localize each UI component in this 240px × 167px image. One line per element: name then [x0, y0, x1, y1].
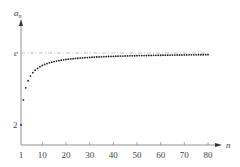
- x-tick-label: 30: [85, 150, 95, 160]
- data-point: [146, 55, 148, 57]
- data-point: [82, 57, 84, 59]
- data-point: [63, 59, 65, 61]
- data-point: [53, 61, 55, 63]
- data-point: [72, 58, 74, 60]
- data-point: [91, 56, 93, 58]
- two-tick-label: 2: [13, 120, 18, 130]
- data-point: [153, 54, 155, 56]
- data-point: [124, 55, 126, 57]
- data-point: [27, 80, 29, 82]
- data-point: [37, 67, 39, 69]
- data-point: [162, 54, 164, 56]
- x-tick-label: 60: [156, 150, 166, 160]
- data-point: [207, 54, 209, 56]
- data-point: [60, 59, 62, 61]
- data-point: [65, 59, 67, 61]
- data-point: [169, 54, 171, 56]
- data-point: [179, 54, 181, 56]
- data-point: [186, 54, 188, 56]
- x-axis-arrow-icon: [215, 143, 222, 147]
- data-point: [75, 58, 77, 60]
- data-point: [200, 54, 202, 56]
- data-point: [67, 58, 69, 60]
- data-point: [105, 56, 107, 58]
- data-point: [164, 54, 166, 56]
- data-point: [103, 56, 105, 58]
- data-point: [122, 55, 124, 57]
- data-point: [96, 56, 98, 58]
- data-point: [22, 99, 24, 101]
- data-point: [138, 55, 140, 57]
- data-point: [136, 55, 138, 57]
- x-tick-label: 80: [204, 150, 214, 160]
- y-axis-label: an: [14, 8, 22, 19]
- data-point: [195, 54, 197, 56]
- data-point: [131, 55, 133, 57]
- data-point: [117, 55, 119, 57]
- data-point: [86, 57, 88, 59]
- data-point: [115, 55, 117, 57]
- x-axis-label: n: [226, 140, 231, 150]
- data-point: [191, 54, 193, 56]
- data-point: [58, 60, 60, 62]
- data-point: [51, 61, 53, 63]
- x-tick-label: 20: [61, 150, 71, 160]
- data-point: [188, 54, 190, 56]
- data-point: [20, 124, 22, 126]
- data-point: [205, 54, 207, 56]
- data-point: [143, 55, 145, 57]
- data-point: [101, 56, 103, 58]
- data-point: [79, 57, 81, 59]
- data-point: [108, 56, 110, 58]
- x-tick-label: 70: [180, 150, 190, 160]
- data-point: [77, 57, 79, 59]
- data-point: [89, 57, 91, 59]
- data-point: [93, 56, 95, 58]
- data-point: [98, 56, 100, 58]
- data-point: [181, 54, 183, 56]
- x-tick-label: 40: [109, 150, 119, 160]
- data-point: [148, 55, 150, 57]
- x-tick-label: 50: [132, 150, 142, 160]
- data-point: [157, 54, 159, 56]
- data-point: [70, 58, 72, 60]
- data-point: [183, 54, 185, 56]
- x-tick-label: 10: [38, 150, 48, 160]
- data-point: [84, 57, 86, 59]
- data-point: [141, 55, 143, 57]
- data-point: [172, 54, 174, 56]
- data-point: [34, 69, 36, 71]
- data-point: [46, 63, 48, 65]
- data-point: [39, 66, 41, 68]
- data-point: [112, 55, 114, 57]
- data-point: [32, 72, 34, 74]
- data-point: [44, 64, 46, 66]
- data-point: [120, 55, 122, 57]
- data-point: [176, 54, 178, 56]
- sequence-scatter-chart: 11020304050607080 an n e 2: [0, 0, 240, 167]
- data-point: [167, 54, 169, 56]
- y-axis-arrow-icon: [19, 19, 23, 26]
- data-point: [127, 55, 129, 57]
- data-point: [30, 75, 32, 77]
- data-point: [150, 54, 152, 56]
- x-tick-label: 1: [19, 150, 24, 160]
- data-point: [49, 62, 51, 64]
- e-tick-label: e: [14, 48, 18, 58]
- data-point: [193, 54, 195, 56]
- data-point: [160, 54, 162, 56]
- data-point: [155, 54, 157, 56]
- data-point: [110, 56, 112, 58]
- data-point: [174, 54, 176, 56]
- data-point: [129, 55, 131, 57]
- data-point: [41, 65, 43, 67]
- data-point: [134, 55, 136, 57]
- data-point: [56, 60, 58, 62]
- data-points: [20, 54, 209, 126]
- data-point: [202, 54, 204, 56]
- data-point: [198, 54, 200, 56]
- data-point: [25, 87, 27, 89]
